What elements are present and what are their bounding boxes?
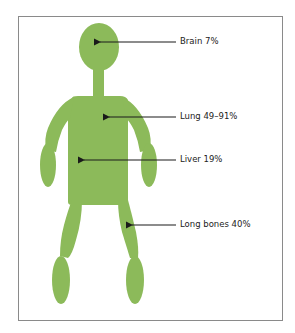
- left-thigh: [60, 200, 82, 258]
- brain-label: Brain 7%: [180, 37, 218, 46]
- torso-shape: [68, 96, 128, 205]
- liver-label: Liver 19%: [180, 155, 222, 164]
- left-forearm: [40, 143, 56, 187]
- right-forearm: [141, 143, 157, 187]
- right-shin: [126, 256, 144, 304]
- neck-shape: [93, 66, 104, 100]
- head-shape: [79, 23, 119, 71]
- lung-label: Lung 49–91%: [180, 112, 237, 121]
- left-shin: [52, 256, 70, 304]
- right-thigh: [118, 200, 138, 258]
- human-silhouette: [0, 0, 295, 333]
- long-bones-label: Long bones 40%: [180, 220, 251, 229]
- figure-body: [40, 23, 157, 304]
